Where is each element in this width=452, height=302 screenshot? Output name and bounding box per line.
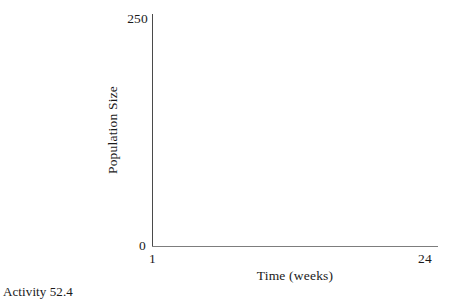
x-axis-title: Time (weeks) xyxy=(152,269,438,283)
plot-area xyxy=(152,14,438,247)
figure-blank-graph: 250 0 1 24 Population Size Time (weeks) … xyxy=(0,0,452,302)
x-axis-tick-label-max: 24 xyxy=(418,252,432,266)
y-axis-line xyxy=(152,14,153,247)
y-axis-tick-label-max: 250 xyxy=(127,12,148,26)
y-axis-title: Population Size xyxy=(106,40,120,220)
x-axis-line xyxy=(152,246,438,247)
x-axis-tick-label-min: 1 xyxy=(149,252,156,266)
y-axis-tick-label-min: 0 xyxy=(139,239,146,253)
figure-caption: Activity 52.4 xyxy=(3,285,73,298)
